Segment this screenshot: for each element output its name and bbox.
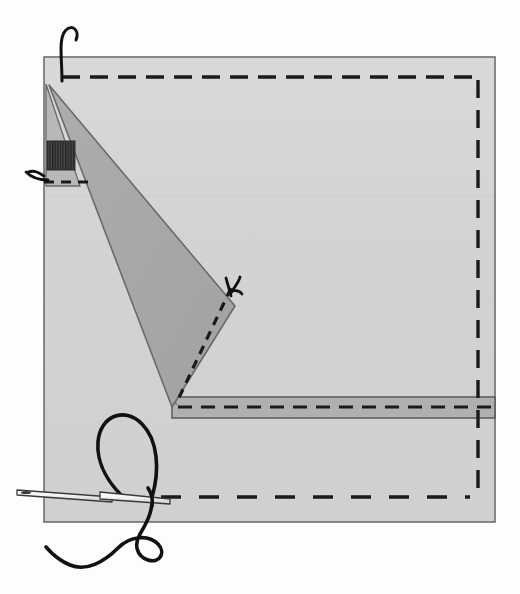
diagram-canvas: Mitered corner stitching diagram Fabric … (0, 0, 520, 594)
bottom-hem-band-shape (172, 397, 495, 418)
fabric-panel-rect (44, 57, 495, 522)
fabric-weave-line (45, 300, 494, 301)
bottom-hem-band (172, 397, 495, 418)
bar-tack-block (47, 141, 75, 170)
bar-tack-stitch (47, 141, 75, 170)
needle-eye (21, 491, 31, 494)
fabric-panel (44, 57, 495, 522)
sewing-diagram-svg (0, 0, 520, 594)
